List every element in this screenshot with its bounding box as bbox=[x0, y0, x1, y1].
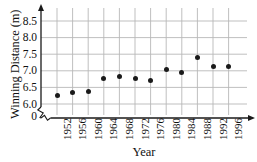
y-tick-label: 6.5 bbox=[11, 82, 37, 94]
y-tick-label: 7.5 bbox=[11, 49, 37, 61]
y-tick-label: 0 bbox=[11, 111, 37, 123]
y-tick-label: 6.0 bbox=[11, 99, 37, 111]
y-tick-label: 8.5 bbox=[11, 16, 37, 28]
scatter-chart: Winning Distance (m) 06.06.57.07.58.08.5… bbox=[0, 0, 257, 162]
gridlines bbox=[41, 8, 247, 115]
data-point bbox=[86, 89, 91, 94]
x-tick-label: 1988 bbox=[202, 118, 213, 140]
plot-area bbox=[41, 8, 247, 115]
x-tick-label: 1976 bbox=[155, 118, 166, 140]
x-tick-label: 1960 bbox=[93, 118, 104, 140]
x-tick-label: 1972 bbox=[140, 118, 151, 140]
data-point bbox=[70, 90, 75, 95]
x-axis-title: Year bbox=[41, 146, 247, 159]
x-tick-label: 1956 bbox=[77, 118, 88, 140]
x-tick-label: 1996 bbox=[233, 118, 244, 140]
x-tick-label: 1952 bbox=[62, 118, 73, 140]
data-point bbox=[148, 78, 153, 83]
x-tick-label: 1968 bbox=[124, 118, 135, 140]
data-point bbox=[211, 64, 216, 69]
data-point bbox=[195, 55, 200, 60]
y-tick-label: 7.0 bbox=[11, 65, 37, 77]
y-tick-label: 8.0 bbox=[11, 32, 37, 44]
x-tick-label: 1964 bbox=[108, 118, 119, 140]
x-axis-tick-labels: 1952195619601964196819721976198019841988… bbox=[41, 117, 247, 147]
y-axis-tick-labels: 06.06.57.07.58.08.5 bbox=[11, 0, 37, 162]
x-tick-label: 1984 bbox=[186, 118, 197, 140]
data-point bbox=[55, 93, 60, 98]
x-tick-label: 1980 bbox=[171, 118, 182, 140]
x-axis-arrowhead bbox=[248, 115, 255, 121]
data-point bbox=[133, 76, 138, 81]
x-tick-label: 1992 bbox=[218, 118, 229, 140]
